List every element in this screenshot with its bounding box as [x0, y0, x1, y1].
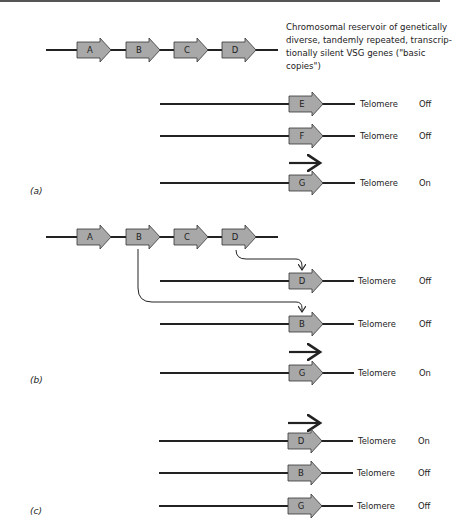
- reservoir-chromosome-b: [46, 225, 278, 249]
- status-label: On: [418, 436, 430, 446]
- telomere-label: Telomere: [358, 368, 396, 378]
- status-label: Off: [419, 131, 431, 141]
- panel-a-expression-sites: [160, 92, 355, 195]
- status-label: Off: [418, 501, 430, 511]
- status-label: Off: [419, 99, 431, 109]
- panel-label-c: (c): [30, 506, 42, 516]
- gene-label-a: A: [87, 45, 93, 55]
- panel-b-expression-sites: [160, 269, 354, 385]
- telomere-label: Telomere: [358, 436, 396, 446]
- status-label: Off: [419, 276, 431, 286]
- panel-label-b: (b): [30, 375, 43, 385]
- gene-label: E: [299, 99, 304, 109]
- gene-label: G: [298, 501, 305, 511]
- gene-label-a: A: [87, 232, 93, 242]
- panel-c-expression-sites: [159, 423, 353, 518]
- reservoir-description: Chromosomal reservoir of genetically div…: [286, 21, 453, 73]
- status-label: Off: [419, 319, 431, 329]
- gene-label: F: [300, 131, 305, 141]
- gene-label: G: [299, 178, 306, 188]
- telomere-label: Telomere: [360, 178, 398, 188]
- reservoir-chromosome-a: [46, 38, 278, 62]
- gene-label-b: B: [136, 232, 142, 242]
- gene-label-d: D: [232, 45, 239, 55]
- telomere-label: Telomere: [360, 131, 398, 141]
- gene-label: D: [298, 436, 305, 446]
- gene-label: G: [299, 368, 306, 378]
- gene-label-c: C: [184, 232, 190, 242]
- gene-label-b: B: [136, 45, 142, 55]
- gene-label: D: [299, 276, 306, 286]
- gene-label-c: C: [184, 45, 190, 55]
- status-label: On: [419, 178, 431, 188]
- telomere-label: Telomere: [357, 468, 395, 478]
- telomere-label: Telomere: [358, 276, 396, 286]
- telomere-label: Telomere: [360, 99, 398, 109]
- panel-label-a: (a): [30, 186, 43, 196]
- telomere-label: Telomere: [358, 319, 396, 329]
- gene-label: B: [299, 319, 305, 329]
- gene-label-d: D: [232, 232, 239, 242]
- gene-label: B: [298, 468, 304, 478]
- telomere-label: Telomere: [357, 501, 395, 511]
- status-label: On: [419, 368, 431, 378]
- status-label: Off: [418, 468, 430, 478]
